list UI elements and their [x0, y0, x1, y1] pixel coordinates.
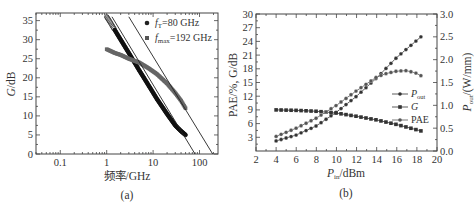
svg-text:15: 15 [243, 77, 254, 88]
svg-text:6: 6 [248, 118, 253, 129]
legend-marker-ft [145, 21, 150, 26]
plot-area-b [274, 35, 423, 143]
svg-text:25: 25 [23, 53, 34, 64]
svg-text:0: 0 [28, 149, 33, 160]
svg-text:14: 14 [371, 154, 382, 165]
svg-text:3: 3 [248, 132, 253, 143]
svg-text:18: 18 [243, 63, 254, 74]
y2-axis-label-b: Pout/(W/mm) [461, 52, 475, 112]
svg-text:1.5: 1.5 [440, 77, 453, 88]
svg-text:30: 30 [243, 9, 254, 20]
plot-frame-b [256, 14, 437, 151]
svg-text:2.0: 2.0 [440, 54, 453, 65]
caption-a: (a) [121, 189, 134, 202]
svg-text:0.0: 0.0 [440, 146, 453, 157]
svg-text:21: 21 [243, 50, 254, 61]
panel-b: 2468101214161820369121518212427300.00.51… [227, 9, 475, 201]
svg-text:1: 1 [104, 157, 109, 168]
legend-b: Pout G PAE [392, 88, 429, 125]
svg-text:10: 10 [23, 110, 34, 121]
svg-text:0.1: 0.1 [54, 157, 67, 168]
svg-text:10: 10 [331, 154, 342, 165]
svg-text:27: 27 [243, 22, 254, 33]
svg-text:12: 12 [243, 91, 254, 102]
legend-a: fT=80 GHz fmax=192 GHz [145, 17, 213, 45]
x-axis-label-a: 频率/GHz [104, 169, 151, 182]
legend-marker-pout [398, 92, 402, 96]
panel-a: 0.111010005101520253035 fT=80 GHz fmax=1… [5, 13, 218, 202]
svg-text:100: 100 [192, 157, 208, 168]
caption-b: (b) [339, 187, 353, 200]
svg-text:15: 15 [23, 91, 34, 102]
svg-text:2: 2 [253, 154, 258, 165]
figure: 0.111010005101520253035 fT=80 GHz fmax=1… [0, 0, 476, 207]
svg-text:9: 9 [248, 104, 253, 115]
legend-label-ft: fT=80 GHz [155, 17, 200, 30]
axis-ticks-b: 2468101214161820369121518212427300.00.51… [243, 9, 454, 166]
legend-marker-g [398, 105, 402, 109]
svg-text:10: 10 [148, 157, 159, 168]
legend-label-pae: PAE [411, 114, 429, 125]
legend-label-fmax: fmax=192 GHz [155, 32, 212, 45]
svg-text:30: 30 [23, 34, 34, 45]
svg-text:6: 6 [294, 154, 299, 165]
svg-text:18: 18 [412, 154, 423, 165]
svg-text:20: 20 [23, 72, 34, 83]
svg-text:24: 24 [243, 36, 254, 47]
svg-text:2.5: 2.5 [440, 31, 453, 42]
svg-text:16: 16 [392, 154, 403, 165]
svg-text:5: 5 [28, 129, 33, 140]
svg-text:8: 8 [314, 154, 319, 165]
x-axis-label-b: Pin/dBm [326, 167, 365, 181]
svg-text:3.0: 3.0 [440, 9, 453, 20]
svg-text:35: 35 [23, 15, 34, 26]
svg-text:4: 4 [273, 154, 279, 165]
svg-text:1.0: 1.0 [440, 100, 453, 111]
legend-label-pout: Pout [410, 88, 426, 100]
legend-label-g: G [411, 101, 418, 112]
svg-text:12: 12 [351, 154, 362, 165]
legend-marker-pae [398, 118, 402, 122]
svg-text:0.5: 0.5 [440, 123, 453, 134]
legend-marker-fmax [145, 36, 149, 40]
y-axis-label-a: G/dB [5, 71, 17, 96]
y-axis-label-b: PAE/%, G/dB [227, 53, 240, 117]
